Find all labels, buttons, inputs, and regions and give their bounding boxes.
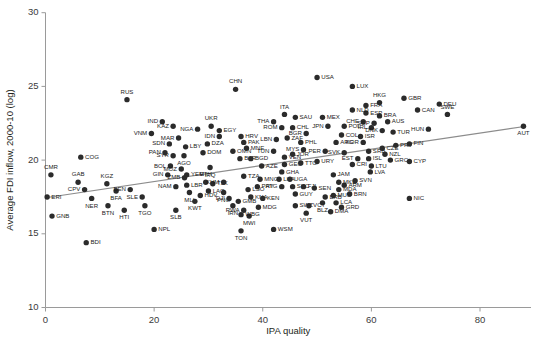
scatter-point [369, 163, 374, 168]
scatter-point [139, 194, 144, 199]
scatter-point [350, 107, 355, 112]
scatter-point [184, 182, 189, 187]
point-label: HKG [373, 91, 386, 98]
point-label: MDG [263, 203, 277, 210]
point-label: JPN [312, 122, 324, 129]
scatter-point [336, 180, 341, 185]
scatter-point [276, 177, 281, 182]
scatter-point [44, 194, 49, 199]
scatter-point [279, 169, 284, 174]
scatter-point [350, 84, 355, 89]
point-label: EST [342, 154, 354, 161]
scatter-point [312, 185, 317, 190]
point-label: IDN [205, 132, 216, 139]
scatter-point [104, 181, 109, 186]
point-label: TUR [397, 128, 410, 135]
scatter-point [183, 144, 188, 149]
point-label: URY [321, 157, 334, 164]
point-label: SLE [126, 193, 138, 200]
point-label: CHN [229, 77, 242, 84]
point-label: AZE [266, 162, 278, 169]
scatter-point [336, 187, 341, 192]
scatter-point [238, 228, 243, 233]
scatter-point [244, 146, 249, 151]
scatter-point [105, 203, 110, 208]
scatter-point [314, 75, 319, 80]
scatter-point [320, 115, 325, 120]
scatter-point [325, 123, 330, 128]
scatter-point [293, 115, 298, 120]
point-label: KGZ [101, 172, 114, 179]
scatter-point [49, 213, 54, 218]
scatter-point [271, 149, 276, 154]
scatter-point [331, 172, 336, 177]
scatter-point [274, 137, 279, 142]
point-label: PHL [305, 138, 317, 145]
point-label: RUS [121, 88, 134, 95]
scatter-point [390, 129, 395, 134]
scatter-point [279, 184, 284, 189]
scatter-point [124, 97, 129, 102]
scatter-point [306, 203, 311, 208]
point-label: MAR [161, 134, 175, 141]
scatter-point [176, 135, 181, 140]
scatter-point [208, 123, 213, 128]
scatter-point [339, 205, 344, 210]
point-label: NPL [158, 225, 170, 232]
x-tick-label: 0 [43, 314, 48, 325]
point-label: GBR [408, 94, 422, 101]
scatter-point [361, 140, 366, 145]
scatter-point [200, 150, 205, 155]
scatter-point [323, 194, 328, 199]
point-label: HUN [411, 125, 424, 132]
point-label: LBY [190, 142, 202, 149]
scatter-point [173, 184, 178, 189]
point-label: SLB [170, 213, 182, 220]
scatter-point [426, 126, 431, 131]
scatter-point [445, 112, 450, 117]
point-label: GAB [72, 170, 85, 177]
scatter-point [198, 193, 203, 198]
y-axis-title: Average FDI inflow, 2000-10 (log) [4, 89, 15, 230]
point-label: VUT [300, 216, 312, 223]
data-points: CMRERIGNBCPVGABNERBDICOGKGZBFABTNHTIBENS… [44, 73, 530, 245]
point-label: GUY [300, 190, 313, 197]
point-label: PAN [149, 148, 161, 155]
scatter-point [245, 187, 250, 192]
point-label: SVN [359, 176, 372, 183]
point-label: WBG [245, 210, 260, 217]
scatter-point [128, 187, 133, 192]
point-label: ITA [280, 103, 290, 110]
point-label: NZL [389, 150, 401, 157]
scatter-point [84, 240, 89, 245]
scatter-point [293, 191, 298, 196]
point-label: LUX [357, 82, 369, 89]
scatter-point [248, 194, 253, 199]
point-label: BGR [289, 129, 303, 136]
scatter-point [167, 141, 172, 146]
scatter-point [366, 156, 371, 161]
point-label: BFA [110, 194, 122, 201]
scatter-point [407, 141, 412, 146]
x-tick-label: 80 [475, 314, 486, 325]
scatter-point [290, 152, 295, 157]
scatter-point [298, 160, 303, 165]
point-label: LBN [260, 135, 272, 142]
scatter-point [521, 123, 526, 128]
scatter-point [355, 156, 360, 161]
scatter-point [385, 119, 390, 124]
point-label: TUN [257, 147, 270, 154]
point-label: CMR [44, 163, 58, 170]
scatter-point [304, 131, 309, 136]
point-label: MEX [327, 113, 340, 120]
plot-area: 1015202530020406080 CMRERIGNBCPVGABNERBD… [0, 0, 534, 359]
y-tick-label: 10 [28, 301, 39, 312]
point-label: JAM [338, 170, 350, 177]
scatter-point [257, 177, 262, 182]
point-label: GIN [153, 170, 164, 177]
point-label: DNK [365, 126, 378, 133]
point-label: ROM [263, 123, 277, 130]
point-label: CYP [414, 157, 427, 164]
scatter-point [282, 162, 287, 167]
scatter-point [170, 153, 175, 158]
